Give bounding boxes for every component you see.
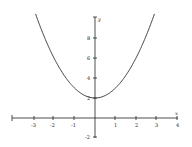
y-axis-label: y <box>97 16 101 23</box>
x-tick-label: 1 <box>114 122 117 128</box>
y-tick-label: 4 <box>87 75 90 81</box>
x-tick-label: -3 <box>31 122 36 128</box>
y-tick-label: 6 <box>87 55 90 61</box>
x-tick-label: -2 <box>50 122 55 128</box>
parabola-chart: -3 -2 -1 1 2 3 4 x 8 6 4 2 -2 y <box>0 0 192 147</box>
y-tick-label: 8 <box>87 35 90 41</box>
y-tick-labels: 8 6 4 2 -2 <box>85 35 90 140</box>
x-axis-label: x <box>175 110 178 116</box>
x-tick-label: -1 <box>71 122 76 128</box>
x-tick-label: 4 <box>176 122 179 128</box>
y-tick-label: -2 <box>85 134 90 140</box>
x-tick-label: 3 <box>155 122 158 128</box>
y-tick-label: 2 <box>87 95 90 101</box>
x-tick-label: 2 <box>135 122 138 128</box>
x-tick-labels: -3 -2 -1 1 2 3 4 <box>31 122 179 128</box>
